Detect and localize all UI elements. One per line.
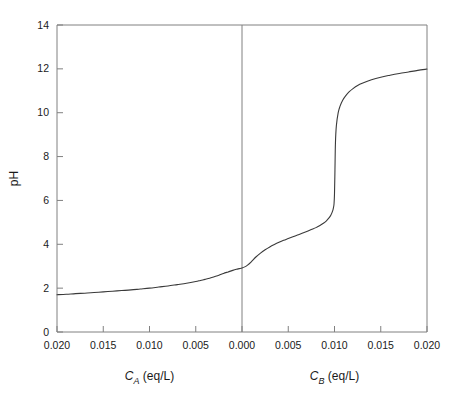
y-tick-label: 14: [37, 19, 49, 31]
x-tick-label: 0.020: [414, 339, 440, 351]
x-tick-label: 0.000: [229, 339, 255, 351]
y-axis-title: pH: [7, 171, 21, 186]
y-tick-label: 6: [43, 194, 49, 206]
x-tick-label: 0.015: [368, 339, 394, 351]
y-tick-label: 12: [37, 62, 49, 74]
y-tick-label: 0: [43, 326, 49, 338]
x-tick-label: 0.005: [183, 339, 209, 351]
x-tick-label: 0.010: [321, 339, 347, 351]
x-tick-label: 0.010: [136, 339, 162, 351]
y-tick-label: 2: [43, 282, 49, 294]
x-tick-label: 0.020: [44, 339, 70, 351]
x-tick-label: 0.005: [275, 339, 301, 351]
y-tick-label: 8: [43, 150, 49, 162]
x-tick-label: 0.015: [90, 339, 116, 351]
x-axis-title-left: CA (eq/L): [125, 369, 174, 386]
y-tick-label: 10: [37, 106, 49, 118]
y-tick-label: 4: [43, 238, 49, 250]
x-axis-title-right: CB (eq/L): [310, 369, 359, 386]
titration-chart-figure: 02468101214pH0.0200.0150.0100.0050.0000.…: [0, 0, 462, 406]
chart-canvas: 02468101214pH0.0200.0150.0100.0050.0000.…: [0, 0, 462, 406]
